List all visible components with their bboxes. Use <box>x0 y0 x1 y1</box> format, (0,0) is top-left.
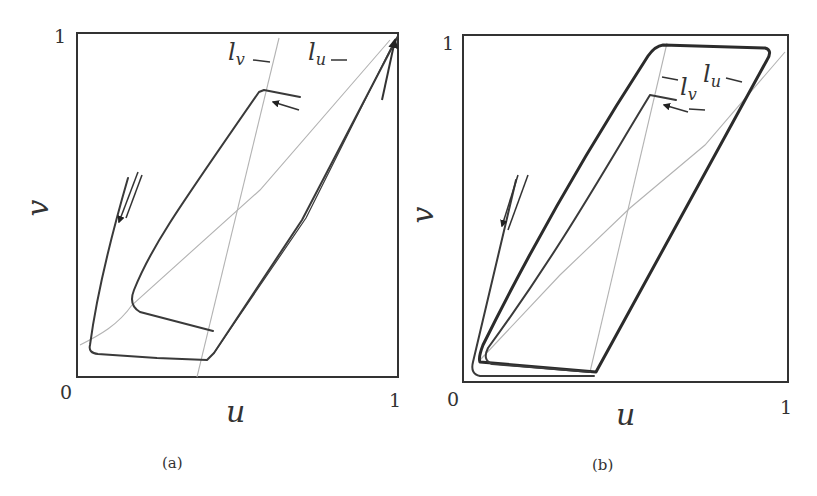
arrow-left-tail <box>689 109 705 110</box>
y-axis-label-b: v <box>405 206 440 223</box>
caption-b: (b) <box>592 456 613 474</box>
x-axis-label-a: u <box>226 394 245 429</box>
nullcline-lu-b <box>480 52 785 360</box>
x-tick-0-b: 0 <box>447 388 459 410</box>
nullcline-lv-a <box>197 38 279 377</box>
figure: lv lu 1 0 1 u v (a) lv lu 1 <box>0 0 817 496</box>
panel-b: lv lu 1 0 1 u v (b) <box>405 32 792 474</box>
y-tick-1-b: 1 <box>442 32 454 54</box>
y-tick-1-a: 1 <box>54 25 66 47</box>
arrow-left-icon <box>664 105 688 112</box>
label-lv-b-leader <box>662 77 678 80</box>
label-lv-b: lv <box>680 73 697 104</box>
nullcline-lv-b <box>590 43 667 372</box>
plot-frame-b <box>463 35 788 382</box>
arrow-up-right-icon <box>382 40 395 100</box>
nullcline-lu-a <box>80 40 390 345</box>
label-lu-b: lu <box>703 60 721 91</box>
x-tick-1-b: 1 <box>780 396 792 418</box>
x-axis-label-b: u <box>616 397 635 432</box>
x-tick-1-a: 1 <box>389 389 401 411</box>
y-axis-label-a: v <box>20 199 55 216</box>
label-lu-b-leader <box>726 78 742 82</box>
trajectory-inner-b <box>486 95 676 372</box>
label-lv-a-leader <box>253 60 270 62</box>
x-tick-0-a: 0 <box>60 381 72 403</box>
label-lu-a: lu <box>308 38 326 69</box>
panel-a: lv lu 1 0 1 u v (a) <box>20 25 401 472</box>
caption-a: (a) <box>162 454 183 472</box>
trajectory-outer-b <box>472 180 594 376</box>
arrow-left-icon <box>273 102 299 110</box>
label-lv-a: lv <box>228 38 245 69</box>
limit-cycle-b <box>479 45 769 372</box>
trajectory-inner-a <box>132 90 300 331</box>
arrow-down-icon <box>502 175 518 226</box>
